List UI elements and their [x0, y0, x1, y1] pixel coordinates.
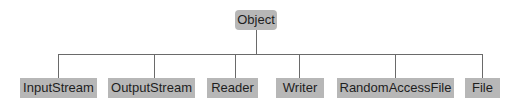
node-file: File	[465, 78, 500, 98]
child-connector	[395, 54, 396, 78]
root-connector	[256, 30, 257, 54]
node-object: Object	[235, 10, 277, 30]
node-writer: Writer	[276, 78, 324, 98]
child-connector	[154, 54, 155, 78]
horizontal-bus	[58, 54, 483, 55]
child-connector	[235, 54, 236, 78]
node-inputstream: InputStream	[20, 78, 97, 98]
node-randomaccessfile: RandomAccessFile	[337, 78, 454, 98]
child-connector	[58, 54, 59, 78]
child-connector	[482, 54, 483, 78]
node-outputstream: OutputStream	[108, 78, 195, 98]
node-reader: Reader	[207, 78, 258, 98]
child-connector	[299, 54, 300, 78]
